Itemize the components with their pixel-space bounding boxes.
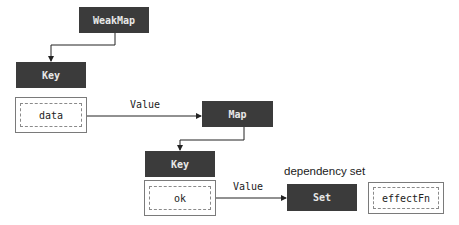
data-inner-box: data <box>20 103 82 127</box>
effectfn-inner-box: effectFn <box>373 187 439 209</box>
data-node: data <box>15 97 87 133</box>
map-label: Map <box>228 109 246 120</box>
effectfn-node: effectFn <box>368 182 444 214</box>
data-label: data <box>39 110 63 121</box>
diagram-canvas: WeakMap Key data Value Map Key ok Value … <box>0 0 459 225</box>
dependency-set-caption: dependency set <box>284 165 365 177</box>
effectfn-label: effectFn <box>382 193 430 204</box>
map-to-key-connector <box>180 127 244 150</box>
value-edge-label-2: Value <box>233 181 263 192</box>
key-node-2: Key <box>145 151 215 177</box>
weakmap-node: WeakMap <box>79 7 149 33</box>
key-label-2: Key <box>171 159 189 170</box>
key-label-1: Key <box>42 70 60 81</box>
ok-inner-box: ok <box>149 186 211 210</box>
key-node-1: Key <box>16 62 86 88</box>
value-edge-label-1: Value <box>130 99 160 110</box>
ok-label: ok <box>174 193 186 204</box>
weakmap-to-key-connector <box>51 33 115 61</box>
set-label: Set <box>313 192 331 203</box>
ok-node: ok <box>144 180 216 216</box>
map-node: Map <box>202 101 273 127</box>
set-node: Set <box>287 184 357 211</box>
weakmap-label: WeakMap <box>93 15 135 26</box>
